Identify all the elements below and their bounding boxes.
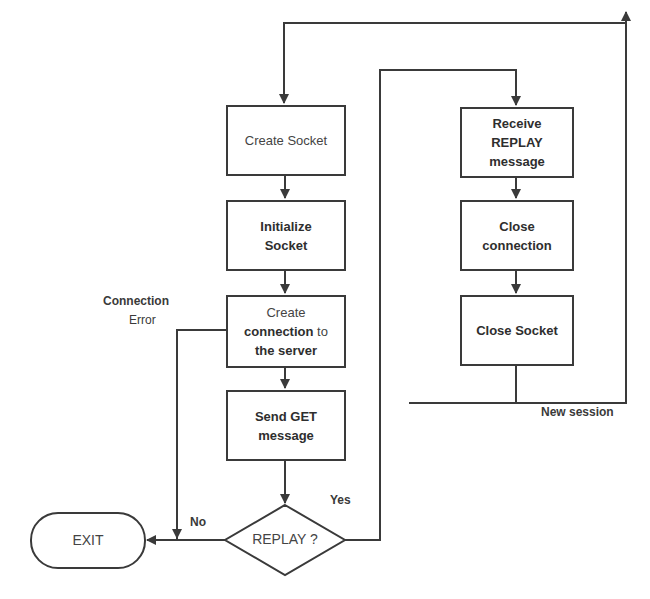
create-connection-step: Create connection to the server [226,295,346,368]
connection-error-title: Connection [103,294,169,308]
yes-label: Yes [330,493,351,507]
no-label: No [190,515,206,529]
receive-replay-step: Receive REPLAY message [460,107,574,178]
receive-replay-line1: Receive [489,114,545,133]
close-connection-line1: Close [482,217,551,236]
create-socket-label: Create Socket [245,131,327,150]
close-connection-line2: connection [482,236,551,255]
receive-replay-line3: message [489,152,545,171]
close-connection-step: Close connection [460,200,574,271]
exit-label: EXIT [72,531,103,550]
close-socket-label: Close Socket [476,321,558,340]
new-session-label: New session [541,405,614,419]
initialize-socket-step: Initialize Socket [226,200,346,271]
connection-error-sub: Error [129,313,156,327]
send-get-step: Send GET message [226,390,346,461]
close-socket-step: Close Socket [460,295,574,366]
create-connection-bold: connection [244,324,313,339]
create-socket-step: Create Socket [226,105,346,176]
create-connection-to: to [313,324,327,339]
create-connection-line3: the server [244,341,328,360]
create-connection-line1: Create [244,303,328,322]
send-get-line2: message [255,426,317,445]
send-get-line1: Send GET [255,407,317,426]
initialize-socket-line1: Initialize [260,217,311,236]
replay-decision: REPLAY ? [235,531,335,547]
receive-replay-line2: REPLAY [489,133,545,152]
exit-terminal: EXIT [30,512,146,569]
initialize-socket-line2: Socket [260,236,311,255]
